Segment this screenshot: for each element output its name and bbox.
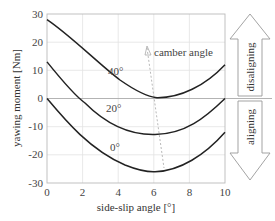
svg-text:10: 10 xyxy=(32,64,44,76)
label-40deg: 40° xyxy=(108,65,123,77)
disaligning-arrow: disaligning xyxy=(230,14,270,96)
svg-text:8: 8 xyxy=(187,186,193,198)
svg-text:0: 0 xyxy=(38,92,44,104)
svg-text:-20: -20 xyxy=(28,148,43,160)
aligning-arrow: aligning xyxy=(230,101,270,180)
svg-text:4: 4 xyxy=(115,186,121,198)
y-ticks: 30 20 10 0 -10 -20 -30 xyxy=(28,8,43,189)
curve-40deg xyxy=(47,20,225,98)
svg-text:20: 20 xyxy=(32,36,44,48)
x-axis-label: side-slip angle [°] xyxy=(97,201,175,213)
chart-svg: 30 20 10 0 -10 -20 -30 0 2 4 6 8 10 side… xyxy=(0,0,275,221)
svg-text:30: 30 xyxy=(32,8,44,20)
disaligning-label: disaligning xyxy=(244,42,256,91)
svg-text:10: 10 xyxy=(220,186,232,198)
svg-text:6: 6 xyxy=(151,186,157,198)
svg-text:0: 0 xyxy=(44,186,50,198)
svg-text:camber angle: camber angle xyxy=(154,46,213,58)
curve-0deg xyxy=(47,99,225,172)
aligning-label: aligning xyxy=(244,108,256,145)
label-20deg: 20° xyxy=(106,102,121,114)
label-0deg: 0° xyxy=(110,141,120,153)
svg-text:-10: -10 xyxy=(28,120,43,132)
x-ticks: 0 2 4 6 8 10 xyxy=(44,186,231,198)
svg-text:-30: -30 xyxy=(28,177,43,189)
y-axis-label: yawing moment [Nm] xyxy=(10,49,22,147)
camber-angle-arrow: camber angle xyxy=(145,46,213,168)
svg-text:2: 2 xyxy=(80,186,86,198)
